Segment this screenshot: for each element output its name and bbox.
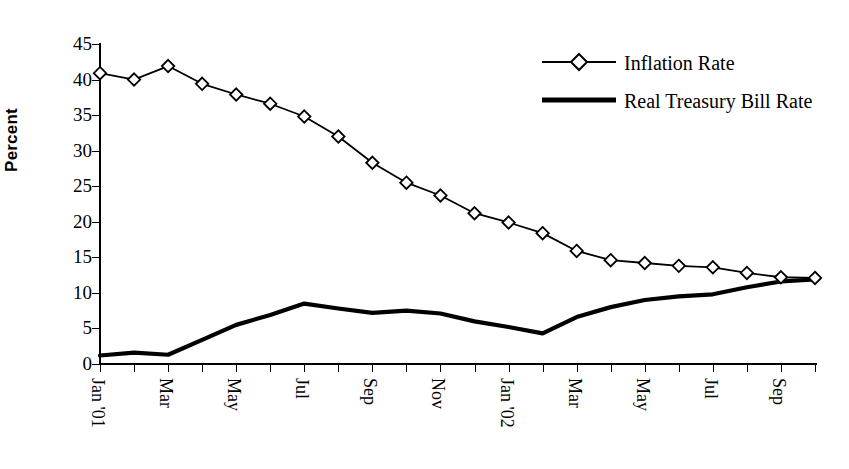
data-point-marker (196, 78, 208, 90)
data-point-marker (434, 189, 446, 201)
legend-label-inflation-rate: Inflation Rate (624, 52, 735, 74)
legend-item-inflation-rate: Inflation Rate (540, 50, 840, 88)
data-point-marker (536, 227, 548, 239)
data-point-marker (741, 267, 753, 279)
data-point-marker (707, 261, 719, 273)
data-point-marker (570, 245, 582, 257)
data-point-marker (639, 257, 651, 269)
data-point-marker (605, 254, 617, 266)
series-line-real-treasury-bill-rate (100, 279, 815, 355)
legend-item-real-treasury-bill-rate: Real Treasury Bill Rate (540, 88, 840, 126)
data-point-marker (502, 216, 514, 228)
data-point-marker (468, 207, 480, 219)
data-point-marker (673, 260, 685, 272)
data-point-marker (298, 110, 310, 122)
chart-legend: Inflation Rate Real Treasury Bill Rate (540, 50, 840, 126)
legend-label-real-treasury-bill-rate: Real Treasury Bill Rate (624, 90, 812, 112)
data-point-marker (264, 98, 276, 110)
data-point-marker (128, 73, 140, 85)
data-point-marker (809, 272, 821, 284)
legend-symbol-thick-solid-line (540, 88, 618, 112)
data-point-marker (94, 67, 106, 79)
data-point-marker (400, 176, 412, 188)
legend-symbol-line-with-diamond-marker (540, 50, 618, 74)
chart-figure: Percent 051015202530354045 Jan '01MarMay… (0, 0, 849, 469)
data-point-marker (162, 60, 174, 72)
data-point-marker (230, 88, 242, 100)
